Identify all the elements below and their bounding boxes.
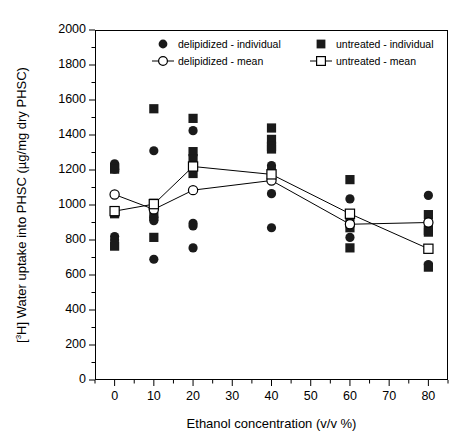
chart-legend: delipidized - individualuntreated - indi… bbox=[152, 36, 442, 70]
legend-label: delipidized - mean bbox=[178, 53, 263, 69]
legend-filled-square-icon bbox=[310, 36, 332, 52]
x-tick-label: 10 bbox=[134, 389, 174, 403]
x-tick-label: 20 bbox=[173, 389, 213, 403]
y-tick-label: 400 bbox=[30, 302, 86, 316]
x-tick-label: 70 bbox=[369, 389, 409, 403]
x-tick-label: 30 bbox=[212, 389, 252, 403]
y-tick-label: 0 bbox=[30, 372, 86, 386]
chart-figure: [3H] Water uptake into PHSC (µg/mg dry P… bbox=[0, 0, 470, 446]
x-tick-label: 60 bbox=[330, 389, 370, 403]
y-tick-label: 1800 bbox=[30, 57, 86, 71]
y-tick-label: 2000 bbox=[30, 22, 86, 36]
y-tick-label: 800 bbox=[30, 232, 86, 246]
y-tick-label: 1600 bbox=[30, 92, 86, 106]
x-tick-label: 50 bbox=[291, 389, 331, 403]
plot-area bbox=[95, 30, 448, 380]
legend-filled-circle-icon bbox=[152, 36, 174, 52]
x-tick-label: 80 bbox=[408, 389, 448, 403]
y-tick-label: 1200 bbox=[30, 162, 86, 176]
y-tick-label: 600 bbox=[30, 267, 86, 281]
y-tick-label: 1400 bbox=[30, 127, 86, 141]
legend-label: untreated - individual bbox=[336, 36, 433, 52]
y-axis-title-superscript: 3 bbox=[14, 335, 23, 339]
legend-open-square-line-icon bbox=[310, 53, 332, 69]
y-tick-label: 1000 bbox=[30, 197, 86, 211]
x-axis-title: Ethanol concentration (v/v %) bbox=[95, 416, 448, 431]
y-tick-label: 200 bbox=[30, 337, 86, 351]
x-tick-label: 0 bbox=[95, 389, 135, 403]
x-tick-label: 40 bbox=[252, 389, 292, 403]
y-axis-title-rest: H] Water uptake into PHSC (µg/mg dry PHS… bbox=[14, 67, 29, 335]
legend-label: untreated - mean bbox=[336, 53, 416, 69]
legend-open-circle-line-icon bbox=[152, 53, 174, 69]
y-axis-title-text: [3H] Water uptake into PHSC (µg/mg dry P… bbox=[14, 67, 29, 343]
legend-label: delipidized - individual bbox=[178, 36, 281, 52]
plot-frame bbox=[95, 30, 448, 380]
